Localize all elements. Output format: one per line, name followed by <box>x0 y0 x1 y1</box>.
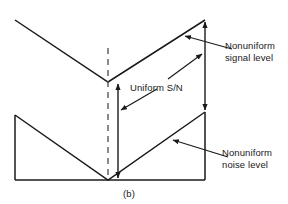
uniform-sn-label: Uniform S/N <box>130 82 183 94</box>
noise-level-label: Nonuniform noise level <box>222 147 272 170</box>
signal-level-label: Nonuniform signal level <box>225 40 275 63</box>
diagram-canvas <box>0 0 288 204</box>
signal-level-label-line1: Nonuniform <box>225 40 275 52</box>
figure-caption: (b) <box>123 188 135 200</box>
noise-level-leader-arrow <box>173 140 228 157</box>
noise-level-curve <box>15 112 205 180</box>
noise-level-label-line2: noise level <box>222 159 272 171</box>
noise-level-label-line1: Nonuniform <box>222 147 272 159</box>
figure-container: Nonuniform signal level Nonuniform noise… <box>0 0 288 204</box>
signal-level-label-line2: signal level <box>225 52 275 64</box>
uniform-sn-leader-arrow-up <box>168 54 202 79</box>
